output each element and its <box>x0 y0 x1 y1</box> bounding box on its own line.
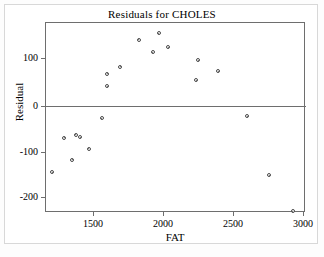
data-point <box>196 58 200 62</box>
data-point <box>245 114 249 118</box>
data-point <box>105 72 109 76</box>
data-point <box>166 45 170 49</box>
y-tick-label: -100 <box>20 147 38 157</box>
x-tick-label: 1500 <box>73 218 113 229</box>
data-point <box>50 170 54 174</box>
chart-title: Residuals for CHOLES <box>0 8 324 20</box>
data-point <box>78 135 82 139</box>
chart-page: Residuals for CHOLES Residual FAT 100 0 … <box>0 0 324 257</box>
y-tick-label: -200 <box>20 192 38 202</box>
data-point <box>105 84 109 88</box>
data-point <box>137 38 141 42</box>
x-tick-mark <box>93 212 94 216</box>
x-tick-mark <box>303 212 304 216</box>
x-tick-label: 3000 <box>283 218 323 229</box>
x-tick-mark <box>233 212 234 216</box>
plot-area <box>45 22 305 212</box>
data-point <box>157 31 161 35</box>
data-point <box>216 69 220 73</box>
data-point <box>87 147 91 151</box>
data-point <box>267 173 271 177</box>
x-tick-label: 2000 <box>143 218 183 229</box>
x-tick-label: 2500 <box>213 218 253 229</box>
x-tick-mark <box>163 212 164 216</box>
data-point <box>70 158 74 162</box>
zero-reference-line <box>46 106 306 107</box>
y-tick-label: 100 <box>23 53 38 63</box>
data-point <box>194 78 198 82</box>
x-axis-title: FAT <box>45 231 305 243</box>
y-axis-title: Residual <box>13 67 25 137</box>
data-point <box>118 65 122 69</box>
data-point <box>151 50 155 54</box>
data-point <box>62 136 66 140</box>
data-point <box>100 116 104 120</box>
y-tick-label: 0 <box>33 101 38 111</box>
